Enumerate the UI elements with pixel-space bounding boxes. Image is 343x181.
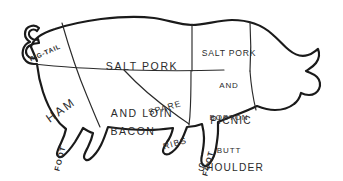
label-line: HAM [37,90,85,130]
label-line: PIG-TAIL [24,41,65,65]
label-line: PICNIC [196,113,266,129]
pork-cuts-diagram: SALT PORK AND LOIN SALT PORK AND BOSTON … [0,0,343,181]
label-line: FOOT [53,143,69,174]
label-line: SPARE [142,96,188,120]
label-line: SALT PORK [98,59,186,75]
label-line: SALT PORK [196,48,262,60]
label-line: FOOT [201,148,217,179]
